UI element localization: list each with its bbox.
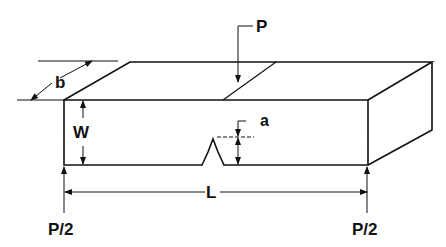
front-face bbox=[64, 100, 368, 165]
thickness-dimension bbox=[17, 61, 118, 100]
thickness-label: b bbox=[55, 73, 65, 92]
beam-diagram: b W a P L P/2 P/2 bbox=[0, 0, 446, 247]
load-arrow bbox=[238, 26, 253, 82]
notch-depth-dimension bbox=[217, 121, 254, 164]
width-label: W bbox=[73, 123, 90, 142]
support-right-label: P/2 bbox=[352, 220, 378, 239]
top-face bbox=[64, 62, 432, 100]
load-label: P bbox=[256, 17, 267, 36]
beam-body bbox=[64, 62, 432, 165]
span-label: L bbox=[206, 183, 216, 202]
notch-depth-label: a bbox=[260, 112, 269, 129]
support-left-label: P/2 bbox=[48, 220, 74, 239]
right-face bbox=[368, 62, 432, 165]
load-line bbox=[223, 62, 276, 100]
